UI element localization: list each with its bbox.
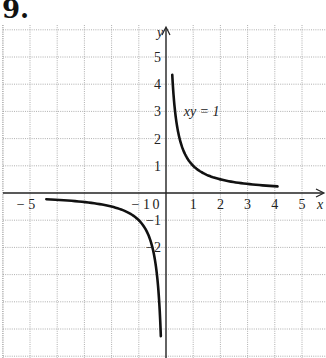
curves [46, 75, 277, 336]
y-tick-label: 4 [154, 77, 161, 92]
x-tick-label: 1 [190, 197, 197, 212]
axes [3, 27, 324, 358]
x-tick-label: − 5 [17, 197, 35, 212]
x-tick-label: 3 [244, 197, 251, 212]
y-tick-label: −1 [146, 213, 161, 228]
x-tick-label: 2 [217, 197, 224, 212]
y-tick-label: −2 [146, 240, 161, 255]
x-tick-label: 4 [271, 197, 278, 212]
x-axis-label: x [316, 197, 324, 212]
x-tick-label: 0 [153, 197, 160, 212]
y-tick-label: 1 [154, 159, 161, 174]
hyperbola-chart: − 5− 101234554321−1−2xyxy = 1 [0, 0, 326, 358]
y-tick-label: 5 [154, 50, 161, 65]
curve-negative-branch [46, 199, 161, 336]
grid [3, 25, 326, 358]
y-tick-label: 3 [154, 104, 161, 119]
curve-positive-branch [172, 75, 277, 187]
y-axis-label: y [155, 25, 164, 40]
x-tick-label: − 1 [132, 197, 150, 212]
equation-label: xy = 1 [183, 104, 220, 119]
y-tick-label: 2 [154, 132, 161, 147]
labels: − 5− 101234554321−1−2xyxy = 1 [17, 25, 324, 255]
x-tick-label: 5 [299, 197, 306, 212]
